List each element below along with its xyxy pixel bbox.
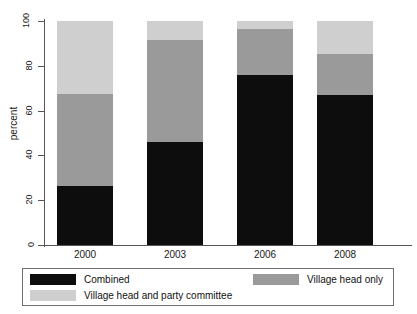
stacked-bar	[317, 21, 373, 245]
plot-area	[45, 21, 410, 245]
legend-swatch-combined	[30, 274, 76, 285]
bar-segment	[147, 40, 203, 142]
x-axis-tick-label: 2008	[305, 249, 385, 260]
y-axis-tick	[38, 21, 44, 22]
y-axis-tick	[38, 66, 44, 67]
chart-root: percent 020406080100 2000200320062008 Co…	[0, 0, 417, 314]
y-axis-tick	[38, 111, 44, 112]
bar-segment	[237, 29, 293, 74]
x-axis-tick-label: 2003	[135, 249, 215, 260]
bar-segment	[147, 21, 203, 40]
bar-segment	[317, 54, 373, 95]
y-axis-tick	[38, 245, 44, 246]
stacked-bar	[237, 21, 293, 245]
y-axis-tick-label: 0	[0, 240, 34, 249]
y-axis-tick-label: 100	[0, 16, 34, 25]
legend-label-combined: Combined	[84, 274, 130, 285]
y-axis-tick-label: 20	[0, 195, 34, 204]
bar-segment	[237, 21, 293, 29]
legend-label-village-head-only: Village head only	[307, 274, 383, 285]
legend-swatch-village-head-only	[253, 274, 299, 285]
y-axis-title: percent	[8, 94, 19, 154]
bar-segment	[147, 142, 203, 245]
y-axis-tick-label: 40	[0, 150, 34, 159]
legend-item-village-head-only: Village head only	[253, 274, 383, 285]
legend-label-village-head-and-party-committee: Village head and party committee	[84, 290, 232, 301]
x-axis-tick-label: 2006	[225, 249, 305, 260]
x-axis-tick-label: 2000	[45, 249, 125, 260]
legend-item-combined: Combined	[30, 274, 130, 285]
y-axis-tick-label: 80	[0, 61, 34, 70]
bar-segment	[57, 186, 113, 245]
stacked-bar	[57, 21, 113, 245]
bar-segment	[317, 95, 373, 245]
y-axis-tick-label: 60	[0, 106, 34, 115]
bar-segment	[57, 94, 113, 186]
chart-legend: Combined Village head only Village head …	[22, 268, 394, 306]
legend-swatch-village-head-and-party-committee	[30, 290, 76, 301]
bar-segment	[317, 21, 373, 54]
y-axis-tick	[38, 155, 44, 156]
stacked-bar	[147, 21, 203, 245]
legend-item-village-head-and-party-committee: Village head and party committee	[30, 290, 232, 301]
x-axis-line	[44, 245, 412, 246]
y-axis-tick	[38, 200, 44, 201]
bar-segment	[57, 21, 113, 94]
bar-segment	[237, 75, 293, 245]
